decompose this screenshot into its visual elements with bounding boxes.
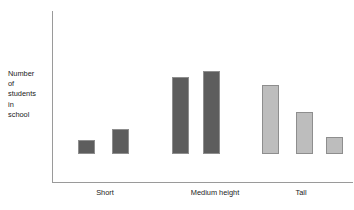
bar [262,85,279,154]
bar [203,71,220,154]
x-axis-line [52,182,353,183]
x-axis-category-label: Tall [295,188,306,197]
x-axis-category-label: Medium height [191,188,239,197]
bar [326,137,343,154]
bar [78,140,95,154]
x-axis-labels: ShortMedium heightTall [0,188,354,202]
x-axis-category-label: Short [96,188,114,197]
bar [112,129,129,154]
plot-area [0,0,354,182]
bar-chart: Number of students in school ShortMedium… [0,0,354,210]
bar [172,77,189,154]
bar [296,112,313,154]
